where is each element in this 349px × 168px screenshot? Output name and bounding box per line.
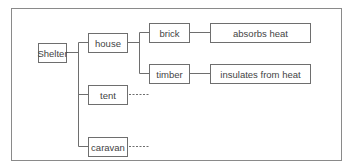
node-house: house: [88, 33, 128, 53]
node-caravan: caravan: [88, 137, 128, 157]
node-timber: timber: [149, 64, 190, 84]
node-tent: tent: [88, 85, 128, 105]
node-absorbs-heat: absorbs heat: [210, 23, 311, 43]
node-shelter: Shelter: [38, 43, 67, 63]
node-brick: brick: [149, 23, 190, 43]
node-insulates-from-heat: insulates from heat: [210, 64, 311, 84]
